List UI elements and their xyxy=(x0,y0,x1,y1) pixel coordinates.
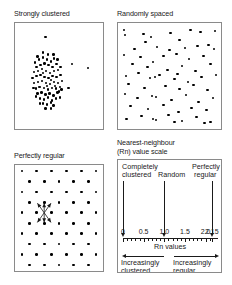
data-point xyxy=(43,201,46,204)
data-point xyxy=(200,76,203,79)
data-point xyxy=(72,222,75,225)
data-point xyxy=(140,115,143,118)
data-point xyxy=(58,222,61,225)
data-point xyxy=(125,75,128,78)
direction-left-line2: clustered xyxy=(121,267,150,273)
data-point xyxy=(34,61,37,64)
data-point xyxy=(203,122,206,125)
data-point xyxy=(43,76,46,79)
data-point xyxy=(40,91,43,94)
data-point xyxy=(39,97,42,100)
data-point xyxy=(214,30,217,33)
data-point xyxy=(44,107,47,110)
data-point xyxy=(32,87,35,90)
data-point xyxy=(72,201,75,204)
data-point xyxy=(187,81,190,84)
axis-tick-minor xyxy=(201,238,202,241)
data-point xyxy=(123,29,126,32)
axis-tick-minor xyxy=(177,238,178,241)
data-point xyxy=(55,63,58,66)
axis-tick-minor xyxy=(197,238,198,241)
axis-tick-minor xyxy=(189,238,190,241)
data-point xyxy=(59,74,62,77)
data-point xyxy=(142,33,145,36)
data-point xyxy=(42,51,45,54)
data-point xyxy=(42,72,45,75)
data-point xyxy=(52,53,55,56)
data-point xyxy=(50,107,53,110)
axis-tick-major xyxy=(206,238,207,242)
data-point xyxy=(152,61,155,64)
data-point xyxy=(197,101,200,104)
axis-tick-label: 0.5 xyxy=(135,228,153,236)
rn-axis-line xyxy=(123,238,218,239)
data-point xyxy=(173,78,176,81)
rn-values-caption: Rn values xyxy=(140,243,200,251)
data-point xyxy=(50,79,53,82)
axis-tick-label: 1.5 xyxy=(176,228,194,236)
data-point xyxy=(65,211,68,214)
data-point xyxy=(177,111,180,114)
scale-title-line2: (Rn) value scale xyxy=(117,148,167,156)
data-point xyxy=(170,99,173,102)
axis-tick-minor xyxy=(168,238,169,241)
data-point xyxy=(37,81,40,84)
data-point xyxy=(43,87,46,90)
data-point xyxy=(184,47,187,50)
data-point xyxy=(137,72,140,75)
data-point xyxy=(57,69,60,72)
data-point xyxy=(46,85,49,88)
data-point xyxy=(155,96,158,99)
data-point xyxy=(72,180,75,183)
marker-pointer-1 xyxy=(164,181,165,233)
data-point xyxy=(209,121,212,124)
axis-tick-major xyxy=(123,238,124,242)
data-point xyxy=(194,70,197,73)
data-point xyxy=(47,64,50,67)
data-point xyxy=(58,201,61,204)
data-point xyxy=(127,83,130,86)
data-point xyxy=(35,95,38,98)
data-point xyxy=(55,97,58,100)
axis-tick-label: 1.0 xyxy=(155,228,173,236)
data-point xyxy=(59,66,62,69)
data-point xyxy=(28,180,31,183)
data-point xyxy=(147,108,150,111)
data-point xyxy=(80,191,83,194)
data-point xyxy=(151,95,154,98)
data-point xyxy=(144,41,147,44)
data-point xyxy=(28,222,31,225)
data-point xyxy=(46,103,49,106)
data-point xyxy=(55,76,58,79)
panel-title-regular: Perfectly regular xyxy=(14,152,65,160)
data-point xyxy=(206,89,209,92)
rn-scale-box: Completely clustered Random Perfectly re… xyxy=(117,159,222,273)
data-point xyxy=(87,67,90,70)
data-point xyxy=(36,55,39,58)
data-point xyxy=(80,170,83,173)
data-point xyxy=(28,201,31,204)
data-point xyxy=(46,58,49,61)
data-point xyxy=(38,58,41,61)
data-point xyxy=(166,69,169,72)
data-point xyxy=(207,44,210,47)
data-point xyxy=(124,93,127,96)
data-point xyxy=(50,232,53,235)
data-point xyxy=(192,84,195,87)
data-point xyxy=(181,120,184,123)
axis-tick-minor xyxy=(152,238,153,241)
data-point xyxy=(156,46,159,49)
data-point xyxy=(35,87,38,90)
panel-title-clustered: Strongly clustered xyxy=(14,10,70,18)
data-point xyxy=(164,85,167,88)
axis-tick-minor xyxy=(173,238,174,241)
axis-tick-minor xyxy=(210,238,211,241)
data-point xyxy=(53,81,56,84)
data-point xyxy=(143,87,146,90)
data-point xyxy=(154,76,157,79)
data-point xyxy=(43,264,46,267)
data-point xyxy=(47,96,50,99)
axis-tick-major xyxy=(144,238,145,242)
data-point xyxy=(185,94,188,97)
data-point xyxy=(48,92,51,95)
